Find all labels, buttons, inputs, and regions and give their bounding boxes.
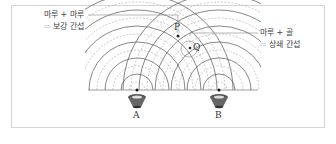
label-destructive: ⇨ 상쇄 간섭 <box>260 40 300 50</box>
arrow-icon: ⇨ <box>260 40 267 49</box>
label-crest-trough: 마루 + 골 <box>260 28 293 38</box>
label-constructive: ⇨ 보강 간섭 <box>44 22 84 32</box>
speaker-b-icon <box>210 94 228 108</box>
label-crest-crest: 마루 + 마루 <box>44 10 84 20</box>
label-destructive-text: 상쇄 간섭 <box>269 40 300 49</box>
label-constructive-text: 보강 간섭 <box>53 22 84 31</box>
speaker-a-icon <box>128 94 146 108</box>
arrow-icon: ⇨ <box>44 22 51 31</box>
point-p <box>177 35 180 38</box>
point-p-label: P <box>174 22 180 32</box>
source-b-label: B <box>215 110 222 120</box>
source-b-dot <box>218 89 221 92</box>
point-q <box>189 47 192 50</box>
leader-line-left <box>88 15 178 33</box>
source-a-label: A <box>133 110 140 120</box>
source-a-dot <box>136 89 139 92</box>
point-q-label: Q <box>193 42 200 52</box>
